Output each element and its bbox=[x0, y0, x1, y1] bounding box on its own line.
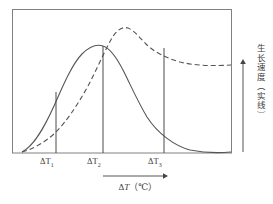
tick-label-dT3-symbol: ΔT bbox=[148, 156, 159, 166]
tick-label-dT1-symbol: ΔT bbox=[40, 156, 51, 166]
y-axis-arrow-head-icon bbox=[240, 59, 246, 64]
growth-rate-chart: ΔT1 ΔT2 ΔT3 ΔT（℃） 生长速度（实线） bbox=[0, 0, 273, 204]
x-axis-unit: （℃） bbox=[129, 182, 157, 192]
chart-canvas bbox=[0, 0, 273, 204]
dashed-curve bbox=[22, 28, 231, 152]
tick-label-dT1: ΔT1 bbox=[40, 156, 54, 168]
x-axis-arrow-head-icon bbox=[163, 173, 168, 179]
tick-label-dT2: ΔT2 bbox=[87, 156, 101, 168]
tick-label-dT2-subscript: 2 bbox=[98, 162, 101, 168]
solid-growth-curve bbox=[22, 45, 231, 152]
x-axis-title: ΔT（℃） bbox=[88, 180, 188, 193]
tick-label-dT3: ΔT3 bbox=[148, 156, 162, 168]
y-axis-title: 生长速度（实线） bbox=[249, 44, 265, 120]
tick-label-dT3-subscript: 3 bbox=[159, 162, 162, 168]
tick-label-dT1-subscript: 1 bbox=[51, 162, 54, 168]
tick-label-dT2-symbol: ΔT bbox=[87, 156, 98, 166]
plot-frame bbox=[13, 10, 232, 154]
